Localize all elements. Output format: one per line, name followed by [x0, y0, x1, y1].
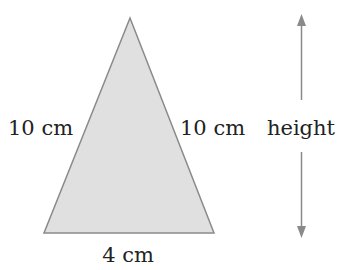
arrow-down-icon — [297, 226, 306, 238]
right-side-label: 10 cm — [180, 116, 245, 140]
left-side-label: 10 cm — [8, 116, 73, 140]
base-label: 4 cm — [102, 243, 154, 267]
arrow-up-icon — [297, 14, 306, 26]
triangle-diagram: 10 cm 10 cm 4 cm height — [0, 0, 341, 270]
height-label: height — [267, 116, 336, 140]
